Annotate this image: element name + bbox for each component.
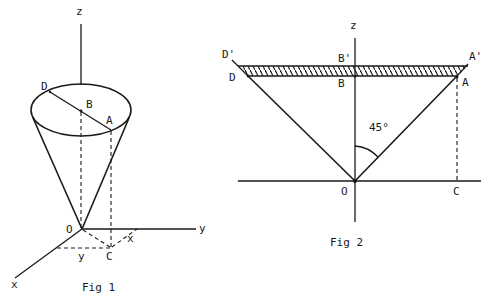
label-B: B (86, 98, 93, 111)
label-z: z (76, 5, 83, 18)
x-axis (15, 229, 82, 278)
dashed-O-to-C (83, 230, 110, 247)
cone-left-side (33, 118, 82, 229)
diagram-canvas: z D B A O y x y C x Fig 1 (0, 0, 495, 306)
figure-1: z D B A O y x y C x Fig 1 (11, 5, 206, 294)
cone-right-side (82, 118, 129, 229)
label-C-fig2: C (453, 185, 460, 198)
hatched-band (238, 66, 468, 76)
line-O-to-D (248, 76, 355, 181)
point-B (80, 110, 83, 113)
label-y-axis: y (199, 222, 206, 235)
label-x-projection: x (127, 232, 134, 245)
label-angle-45: 45° (369, 121, 389, 134)
label-A-prime: A' (469, 50, 482, 63)
label-C: C (106, 250, 113, 263)
label-A: A (106, 114, 113, 127)
caption-fig-2: Fig 2 (330, 236, 363, 249)
label-A-fig2: A (462, 76, 469, 89)
figure-2: z D' D B' B A' A 45° O C Fig 2 (222, 19, 482, 249)
point-B-fig2 (353, 74, 356, 77)
point-D-fig2 (247, 75, 250, 78)
point-O-fig2 (353, 179, 357, 183)
label-O-fig2: O (341, 185, 348, 198)
caption-fig-1: Fig 1 (82, 281, 115, 294)
label-y-projection: y (78, 250, 85, 263)
label-B-fig2: B (338, 77, 345, 90)
label-D-prime: D' (222, 48, 235, 61)
label-z-fig2: z (350, 19, 357, 32)
label-B-prime: B' (338, 52, 351, 65)
point-A-fig2 (456, 76, 459, 79)
label-O: O (66, 223, 73, 236)
label-D-fig2: D (229, 71, 236, 84)
label-D: D (41, 80, 48, 93)
angle-arc-45 (355, 146, 378, 157)
label-x-axis: x (11, 278, 18, 291)
point-D (49, 91, 51, 93)
